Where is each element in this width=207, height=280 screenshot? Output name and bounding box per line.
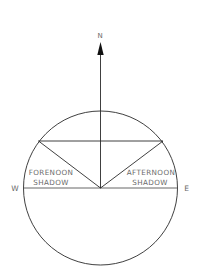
west-label: W bbox=[11, 184, 19, 193]
north-label: N bbox=[97, 32, 102, 40]
north-arrow-icon bbox=[97, 42, 103, 55]
forenoon-label-line1: FORENOON bbox=[29, 168, 74, 177]
afternoon-label-line1: AFTERNOON bbox=[127, 168, 176, 177]
east-label: E bbox=[184, 184, 189, 193]
shadow-diagram: N W E FORENOON SHADOW AFTERNOON SHADOW bbox=[0, 0, 207, 280]
forenoon-label-line2: SHADOW bbox=[33, 178, 69, 187]
afternoon-label-line2: SHADOW bbox=[132, 178, 168, 187]
